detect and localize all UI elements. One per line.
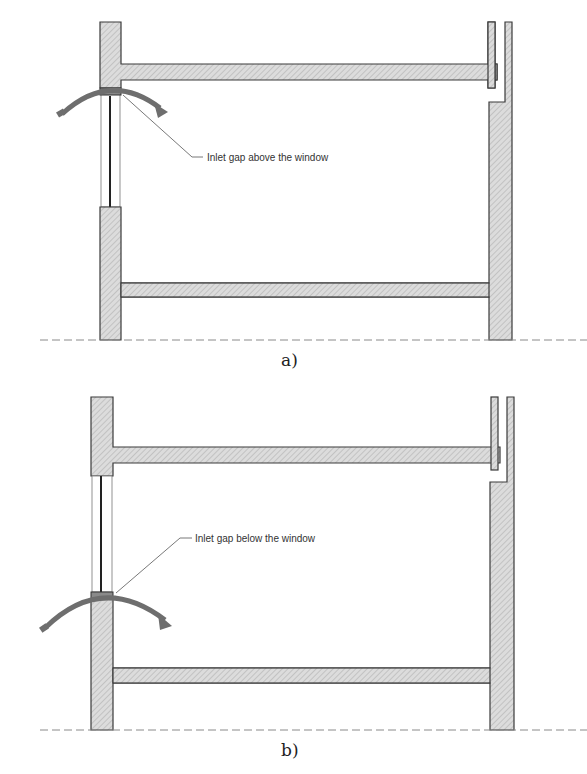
window-b xyxy=(92,476,112,592)
annotation-a: Inlet gap above the window xyxy=(207,152,329,163)
left-wall-lower-b xyxy=(91,599,113,730)
lower-slab-a xyxy=(121,283,489,297)
left-wall-upper-b xyxy=(91,397,500,476)
window-a xyxy=(101,88,120,207)
leader-line-a xyxy=(123,95,203,157)
annotation-b: Inlet gap below the window xyxy=(195,533,316,544)
left-wall-upper xyxy=(100,22,497,88)
panel-a: Inlet gap above the window a) xyxy=(40,22,587,370)
ventilation-section-diagram: Inlet gap above the window a) Inlet gap … xyxy=(0,0,587,774)
lower-slab-b xyxy=(113,668,490,683)
panel-b: Inlet gap below the window b) xyxy=(39,397,587,760)
leader-line-b xyxy=(116,538,192,593)
caption-b: b) xyxy=(281,740,299,760)
caption-a: a) xyxy=(281,350,298,370)
left-wall-lower xyxy=(100,207,121,340)
right-inner-wall-b xyxy=(491,397,498,470)
